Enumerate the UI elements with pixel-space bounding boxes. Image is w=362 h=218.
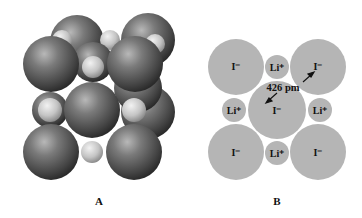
ion-label-iodide: I⁻ bbox=[232, 147, 241, 158]
lithium-sphere-front bbox=[82, 56, 104, 78]
lithium-sphere-front bbox=[38, 98, 62, 122]
iodide-sphere-front bbox=[23, 36, 79, 92]
ion-label-lithium: Li⁺ bbox=[227, 105, 241, 116]
ion-label-iodide: I⁻ bbox=[273, 105, 282, 116]
ion-label-lithium: Li⁺ bbox=[313, 105, 327, 116]
lithium-sphere-front bbox=[81, 141, 103, 163]
distance-label: 426 pm bbox=[267, 82, 300, 93]
ion-label-iodide: I⁻ bbox=[232, 61, 241, 72]
ion-label-iodide: I⁻ bbox=[314, 147, 323, 158]
panel-b-label: B bbox=[273, 195, 281, 207]
panel-a-label: A bbox=[95, 195, 103, 207]
ion-label-iodide: I⁻ bbox=[314, 61, 323, 72]
iodide-sphere-center bbox=[64, 82, 120, 138]
ion-label-lithium: Li⁺ bbox=[270, 62, 284, 73]
panel-a-lattice-model bbox=[23, 13, 175, 180]
lithium-iodide-figure: I⁻ I⁻ I⁻ I⁻ I⁻ Li⁺ Li⁺ Li⁺ Li⁺ 426 pm A … bbox=[0, 0, 362, 218]
iodide-sphere-front bbox=[107, 36, 163, 92]
lithium-sphere-front bbox=[122, 98, 146, 122]
ion-label-lithium: Li⁺ bbox=[270, 148, 284, 159]
iodide-sphere-front bbox=[23, 124, 79, 180]
iodide-sphere-front bbox=[106, 124, 162, 180]
